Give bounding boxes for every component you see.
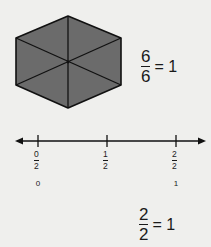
right-arrow-icon	[198, 138, 206, 145]
tick-label-1: 1 2	[103, 150, 108, 170]
left-arrow-icon	[15, 138, 23, 145]
hexagon-equation: 6 6 = 1	[141, 48, 177, 85]
fraction-six-sixths: 6 6	[141, 48, 150, 85]
tick-label-0: 0 2	[34, 150, 39, 170]
numerator: 2	[139, 206, 148, 223]
diagram-canvas: 6 6 = 1 0 2 1 2 2 2 0 1 2 2 = 1	[0, 0, 211, 247]
number-line	[15, 135, 206, 147]
denominator: 6	[141, 68, 150, 85]
numerator: 6	[141, 48, 150, 65]
fraction-two-halves: 2 2	[139, 206, 148, 243]
hexagon-shape	[16, 16, 121, 108]
denominator: 2	[139, 226, 148, 243]
equals-one: = 1	[152, 216, 175, 234]
figure-svg	[0, 0, 211, 247]
tick-label-2: 2 2	[172, 150, 177, 170]
whole-label-2: 1	[174, 179, 178, 188]
equals-one: = 1	[154, 58, 177, 76]
whole-label-0: 0	[36, 179, 40, 188]
bottom-equation: 2 2 = 1	[139, 206, 175, 243]
